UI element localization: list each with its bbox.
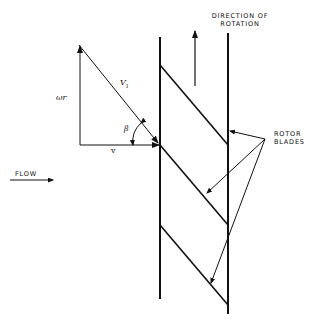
beta-label: β	[124, 124, 129, 133]
rotor-blade-2	[160, 145, 228, 225]
v-label: v	[111, 146, 116, 155]
omega-r-label: ωr	[56, 93, 66, 102]
direction-of-rotation-label: DIRECTION OF ROTATION	[198, 12, 282, 28]
beta-angle-arc	[133, 123, 141, 145]
rotor-blade-1	[160, 65, 228, 145]
leader-line-3	[211, 139, 265, 283]
v1-label: V1	[120, 78, 129, 89]
diagram-canvas	[0, 0, 317, 323]
v1-vector	[79, 45, 158, 143]
flow-label: FLOW	[15, 170, 37, 178]
rotor-blades-label: ROTOR BLADES	[274, 130, 305, 146]
leader-line-2	[207, 139, 265, 193]
leader-line-1	[230, 131, 265, 139]
